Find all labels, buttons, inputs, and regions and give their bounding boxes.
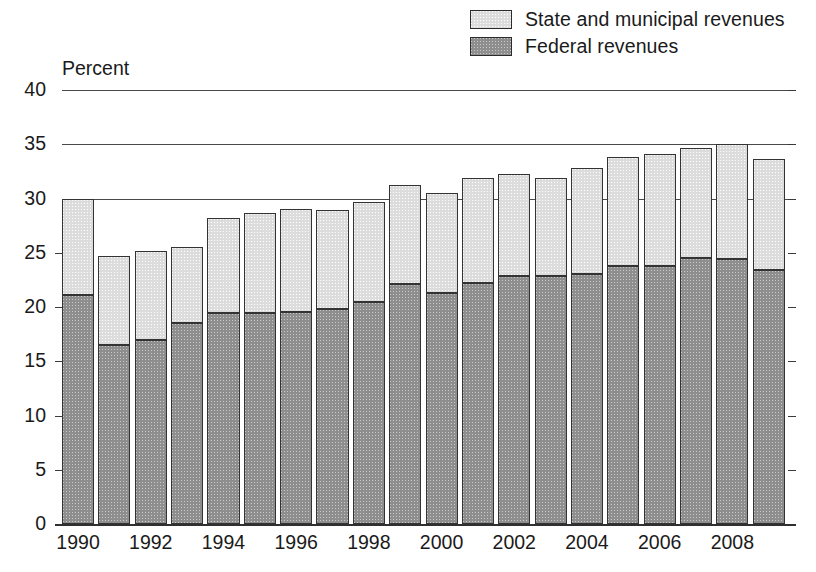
bar-segment-state-1998 bbox=[353, 202, 385, 302]
y-tick-right-5 bbox=[788, 470, 796, 471]
bar-2000 bbox=[426, 193, 458, 524]
bar-segment-state-2009 bbox=[753, 159, 785, 270]
bar-segment-state-1990 bbox=[62, 199, 94, 296]
bar-segment-state-1991 bbox=[98, 256, 130, 345]
x-tick-label-1996: 1996 bbox=[266, 532, 326, 552]
gridline-35 bbox=[62, 144, 796, 145]
y-tick-label-35: 35 bbox=[0, 134, 46, 154]
bar-segment-federal-1996 bbox=[280, 312, 312, 524]
bar-segment-federal-1994 bbox=[207, 313, 239, 523]
chart-figure: State and municipal revenues Federal rev… bbox=[0, 0, 816, 572]
y-tick-label-5: 5 bbox=[0, 460, 46, 480]
x-tick-label-2006: 2006 bbox=[630, 532, 690, 552]
bar-segment-federal-2009 bbox=[753, 270, 785, 524]
x-axis-baseline bbox=[55, 524, 796, 526]
bar-segment-state-1992 bbox=[135, 251, 167, 340]
bar-2003 bbox=[535, 178, 567, 524]
bar-segment-federal-1993 bbox=[171, 323, 203, 524]
bar-segment-federal-1990 bbox=[62, 295, 94, 524]
bar-segment-state-1996 bbox=[280, 209, 312, 312]
y-tick-label-15: 15 bbox=[0, 351, 46, 371]
gridline-40 bbox=[62, 90, 796, 91]
bar-2005 bbox=[607, 157, 639, 524]
bar-2009 bbox=[753, 159, 785, 524]
x-tick-label-2000: 2000 bbox=[412, 532, 472, 552]
bar-1998 bbox=[353, 202, 385, 524]
bar-2008 bbox=[716, 144, 748, 524]
bar-segment-state-1993 bbox=[171, 247, 203, 323]
x-tick-label-1994: 1994 bbox=[193, 532, 253, 552]
bar-segment-federal-1997 bbox=[316, 309, 348, 524]
y-tick-label-25: 25 bbox=[0, 243, 46, 263]
bar-segment-federal-1992 bbox=[135, 340, 167, 524]
bar-2002 bbox=[498, 174, 530, 524]
bar-2004 bbox=[571, 168, 603, 524]
bar-segment-federal-2007 bbox=[680, 258, 712, 524]
y-tick-right-35 bbox=[788, 144, 796, 145]
bar-segment-state-1997 bbox=[316, 210, 348, 309]
bar-segment-state-2007 bbox=[680, 148, 712, 259]
bar-segment-federal-1998 bbox=[353, 302, 385, 524]
x-tick-label-2002: 2002 bbox=[484, 532, 544, 552]
bar-1994 bbox=[207, 218, 239, 524]
bar-segment-state-1999 bbox=[389, 185, 421, 284]
bar-segment-state-2003 bbox=[535, 178, 567, 276]
bar-segment-federal-1991 bbox=[98, 345, 130, 524]
y-tick-right-30 bbox=[788, 199, 796, 200]
x-tick-label-1992: 1992 bbox=[121, 532, 181, 552]
bar-1990 bbox=[62, 199, 94, 525]
y-tick-label-20: 20 bbox=[0, 297, 46, 317]
y-tick-right-10 bbox=[788, 416, 796, 417]
bar-1992 bbox=[135, 251, 167, 524]
bar-1991 bbox=[98, 256, 130, 524]
bar-segment-federal-2008 bbox=[716, 259, 748, 524]
bar-segment-state-2004 bbox=[571, 168, 603, 274]
bar-segment-federal-1999 bbox=[389, 284, 421, 524]
x-tick-label-2004: 2004 bbox=[557, 532, 617, 552]
bar-segment-state-2000 bbox=[426, 193, 458, 293]
bar-segment-state-2002 bbox=[498, 174, 530, 276]
bar-segment-state-2005 bbox=[607, 157, 639, 266]
bar-1993 bbox=[171, 247, 203, 524]
bar-2007 bbox=[680, 148, 712, 524]
bar-segment-federal-1995 bbox=[244, 313, 276, 523]
bar-segment-state-2006 bbox=[644, 154, 676, 266]
y-tick-label-0: 0 bbox=[0, 514, 46, 534]
y-tick-right-15 bbox=[788, 361, 796, 362]
bar-segment-state-2008 bbox=[716, 144, 748, 259]
bar-segment-federal-2006 bbox=[644, 266, 676, 524]
y-tick-label-40: 40 bbox=[0, 80, 46, 100]
bar-2006 bbox=[644, 154, 676, 524]
y-tick-right-25 bbox=[788, 253, 796, 254]
x-tick-label-1990: 1990 bbox=[48, 532, 108, 552]
bar-1996 bbox=[280, 209, 312, 524]
bar-segment-state-2001 bbox=[462, 178, 494, 283]
bar-segment-state-1995 bbox=[244, 213, 276, 314]
y-tick-right-40 bbox=[788, 90, 796, 91]
bar-segment-federal-2001 bbox=[462, 283, 494, 524]
y-tick-right-20 bbox=[788, 307, 796, 308]
bar-segment-federal-2003 bbox=[535, 276, 567, 524]
bar-1999 bbox=[389, 185, 421, 524]
y-tick-label-10: 10 bbox=[0, 406, 46, 426]
plot-area: 0510152025303540199019921994199619982000… bbox=[0, 0, 816, 572]
bar-segment-federal-2005 bbox=[607, 266, 639, 524]
bar-1995 bbox=[244, 213, 276, 524]
bar-segment-federal-2000 bbox=[426, 293, 458, 524]
bar-2001 bbox=[462, 178, 494, 524]
x-tick-label-2008: 2008 bbox=[702, 532, 762, 552]
bar-segment-federal-2004 bbox=[571, 274, 603, 524]
y-tick-label-30: 30 bbox=[0, 189, 46, 209]
bar-segment-federal-2002 bbox=[498, 276, 530, 524]
x-tick-label-1998: 1998 bbox=[339, 532, 399, 552]
bar-segment-state-1994 bbox=[207, 218, 239, 313]
bar-1997 bbox=[316, 210, 348, 524]
